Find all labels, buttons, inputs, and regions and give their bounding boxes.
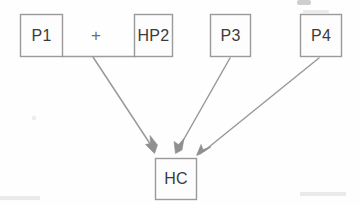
- node-hp2[interactable]: HP2: [135, 15, 173, 57]
- arrow-p4-to-hc: [197, 58, 320, 156]
- node-p3[interactable]: P3: [211, 15, 251, 57]
- scan-smudge-bottom-right: [300, 192, 346, 196]
- scan-smudge-top-right: [297, 0, 311, 5]
- node-hc[interactable]: HC: [156, 159, 197, 200]
- reaction-diagram: P1 + HP2 P3 P4 HC: [0, 0, 360, 205]
- arrow-p1hp2-to-hc-shaft: [93, 57, 152, 146]
- node-p4-label: P4: [311, 27, 331, 44]
- node-p3-label: P3: [220, 27, 240, 44]
- node-p4[interactable]: P4: [301, 15, 342, 57]
- operator-plus: +: [91, 26, 101, 45]
- operator-plus-label: +: [91, 26, 101, 45]
- diagram-canvas: P1 + HP2 P3 P4 HC: [0, 0, 360, 205]
- arrow-p3-to-hc-shaft: [180, 58, 230, 146]
- paper-speck-left: [32, 116, 36, 120]
- node-hp2-label: HP2: [137, 27, 169, 44]
- arrow-p3-to-hc-head: [174, 139, 184, 154]
- node-p1[interactable]: P1: [21, 15, 63, 57]
- arrow-p1hp2-to-hc-head: [146, 136, 158, 154]
- scan-smudge-top-right-lower: [303, 10, 329, 13]
- arrow-p3-to-hc: [174, 58, 230, 154]
- arrow-p1hp2-to-hc: [93, 57, 158, 154]
- node-hc-label: HC: [164, 170, 188, 187]
- node-p1-label: P1: [31, 27, 51, 44]
- scan-smudge-bottom-left: [0, 196, 40, 200]
